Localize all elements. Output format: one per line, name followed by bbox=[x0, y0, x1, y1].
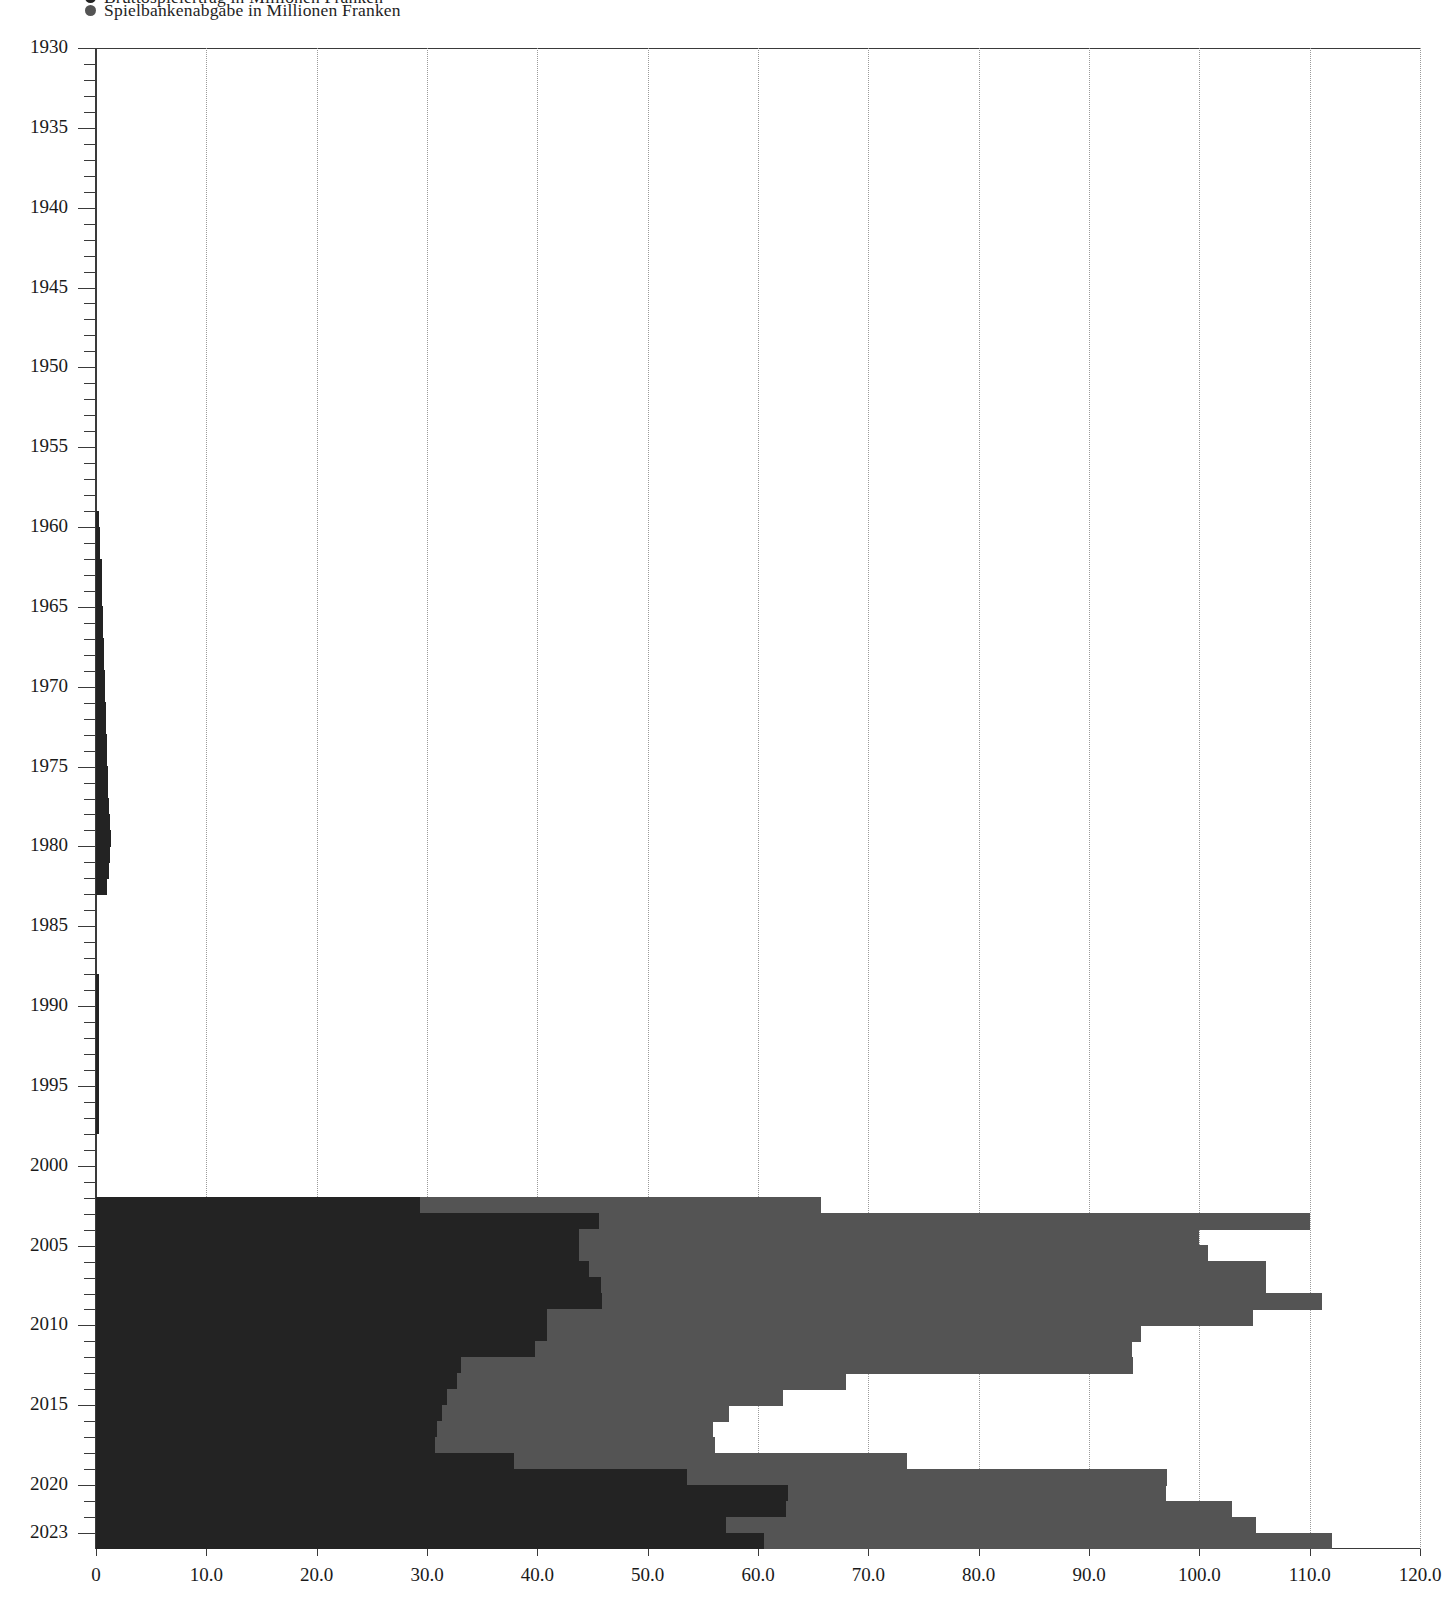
bar-segment-rest bbox=[457, 1373, 846, 1390]
bar-segment-abgabe bbox=[96, 1038, 99, 1055]
y-tick-minor bbox=[84, 112, 96, 113]
bar-segment-abgabe bbox=[96, 1357, 461, 1374]
bar-segment-abgabe bbox=[96, 575, 102, 592]
y-axis-label: 2005 bbox=[0, 1234, 68, 1256]
bar-segment-rest bbox=[602, 1293, 1321, 1310]
y-tick-minor bbox=[84, 639, 96, 640]
bar-segment-rest bbox=[535, 1341, 1132, 1358]
bar-segment-rest bbox=[547, 1325, 1141, 1342]
bar-segment-abgabe bbox=[96, 606, 103, 623]
bar-row bbox=[96, 1022, 1420, 1039]
y-tick-minor bbox=[84, 942, 96, 943]
y-tick-minor bbox=[84, 974, 96, 975]
x-axis-label: 100.0 bbox=[1178, 1564, 1221, 1586]
bar-row bbox=[96, 782, 1420, 799]
bar-segment-rest bbox=[579, 1245, 1208, 1262]
bar-segment-rest bbox=[589, 1261, 1265, 1278]
bar-row bbox=[96, 591, 1420, 608]
y-tick-minor bbox=[84, 1182, 96, 1183]
bar-row bbox=[96, 1309, 1420, 1326]
bar-segment-rest bbox=[437, 1421, 713, 1438]
y-tick-minor bbox=[84, 144, 96, 145]
bar-segment-abgabe bbox=[96, 702, 106, 719]
bar-segment-abgabe bbox=[96, 974, 99, 991]
y-axis-label: 2023 bbox=[0, 1521, 68, 1543]
y-axis-label: 2000 bbox=[0, 1154, 68, 1176]
bar-row bbox=[96, 543, 1420, 560]
y-tick-major bbox=[78, 527, 96, 528]
bar-segment-abgabe bbox=[96, 750, 107, 767]
bar-row bbox=[96, 1006, 1420, 1023]
bar-row bbox=[96, 559, 1420, 576]
y-tick-minor bbox=[84, 511, 96, 512]
bar-segment-rest bbox=[687, 1469, 1167, 1486]
bar-row bbox=[96, 1261, 1420, 1278]
bar-row bbox=[96, 1070, 1420, 1087]
bar-segment-abgabe bbox=[96, 846, 110, 863]
bar-segment-abgabe bbox=[96, 1277, 601, 1294]
y-tick-minor bbox=[84, 1437, 96, 1438]
y-tick-minor bbox=[84, 1230, 96, 1231]
bar-row bbox=[96, 734, 1420, 751]
y-tick-major bbox=[78, 1246, 96, 1247]
y-tick-minor bbox=[84, 64, 96, 65]
bar-segment-abgabe bbox=[96, 559, 102, 576]
y-tick-minor bbox=[84, 431, 96, 432]
bar-row bbox=[96, 990, 1420, 1007]
bar-row bbox=[96, 670, 1420, 687]
bar-row bbox=[96, 1197, 1420, 1214]
bar-segment-abgabe bbox=[96, 782, 108, 799]
y-axis-label: 1975 bbox=[0, 755, 68, 777]
y-axis-label: 1965 bbox=[0, 595, 68, 617]
bar-row bbox=[96, 814, 1420, 831]
y-tick-minor bbox=[84, 591, 96, 592]
y-tick-minor bbox=[84, 783, 96, 784]
x-tick bbox=[206, 1549, 207, 1556]
y-tick-major bbox=[78, 48, 96, 49]
y-tick-major bbox=[78, 447, 96, 448]
y-tick-minor bbox=[84, 272, 96, 273]
bar-row bbox=[96, 1405, 1420, 1422]
bar-row bbox=[96, 1117, 1420, 1134]
bar-segment-abgabe bbox=[96, 1261, 589, 1278]
bar-segment-abgabe bbox=[96, 766, 108, 783]
y-tick-minor bbox=[84, 1214, 96, 1215]
y-tick-minor bbox=[84, 383, 96, 384]
y-tick-minor bbox=[84, 80, 96, 81]
bar-segment-rest bbox=[764, 1533, 1332, 1550]
bar-row bbox=[96, 1421, 1420, 1438]
bar-row bbox=[96, 830, 1420, 847]
x-axis-label: 10.0 bbox=[190, 1564, 223, 1586]
y-axis-label: 2020 bbox=[0, 1473, 68, 1495]
bar-segment-abgabe bbox=[96, 990, 99, 1007]
y-tick-minor bbox=[84, 1357, 96, 1358]
bar-segment-abgabe bbox=[96, 1469, 687, 1486]
y-tick-minor bbox=[84, 1022, 96, 1023]
y-tick-minor bbox=[84, 862, 96, 863]
y-tick-major bbox=[78, 607, 96, 608]
bar-segment-rest bbox=[726, 1517, 1256, 1534]
bar-segment-rest bbox=[420, 1197, 821, 1214]
y-tick-minor bbox=[84, 1294, 96, 1295]
y-tick-minor bbox=[84, 1389, 96, 1390]
bar-segment-abgabe bbox=[96, 830, 111, 847]
y-tick-minor bbox=[84, 1278, 96, 1279]
y-tick-minor bbox=[84, 751, 96, 752]
y-tick-minor bbox=[84, 319, 96, 320]
y-tick-minor bbox=[84, 96, 96, 97]
bar-segment-rest bbox=[579, 1229, 1199, 1246]
y-tick-major bbox=[78, 1166, 96, 1167]
legend-label-main: Spielbankenabgabe in Millionen Franken bbox=[104, 0, 401, 21]
y-tick-major bbox=[78, 767, 96, 768]
y-tick-minor bbox=[84, 1501, 96, 1502]
y-tick-minor bbox=[84, 623, 96, 624]
bar-segment-abgabe bbox=[96, 1421, 437, 1438]
x-axis-label: 20.0 bbox=[300, 1564, 333, 1586]
x-axis-label: 40.0 bbox=[521, 1564, 554, 1586]
y-axis-label: 1970 bbox=[0, 675, 68, 697]
x-axis-label: 70.0 bbox=[852, 1564, 885, 1586]
bar-row bbox=[96, 1038, 1420, 1055]
bar-segment-abgabe bbox=[96, 1405, 442, 1422]
bar-row bbox=[96, 575, 1420, 592]
y-tick-minor bbox=[84, 1341, 96, 1342]
